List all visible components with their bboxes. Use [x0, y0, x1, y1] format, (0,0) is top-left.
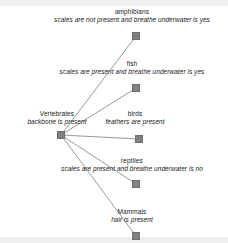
node-marker-vertebrates[interactable]	[57, 131, 65, 139]
node-marker-mammals[interactable]	[132, 232, 140, 240]
edge-vertebrates-to-mammals	[61, 135, 136, 236]
edge-vertebrates-to-reptiles	[61, 135, 136, 184]
node-marker-amphibians[interactable]	[132, 32, 140, 40]
edge-layer	[0, 0, 228, 243]
node-marker-fish[interactable]	[132, 84, 140, 92]
diagram-canvas: Vertebratesbackbone is presentamphibians…	[0, 0, 228, 243]
node-marker-reptiles[interactable]	[132, 180, 140, 188]
edge-vertebrates-to-fish	[61, 88, 136, 135]
edge-vertebrates-to-birds	[61, 135, 139, 139]
node-marker-birds[interactable]	[135, 135, 143, 143]
edge-vertebrates-to-amphibians	[61, 36, 136, 135]
